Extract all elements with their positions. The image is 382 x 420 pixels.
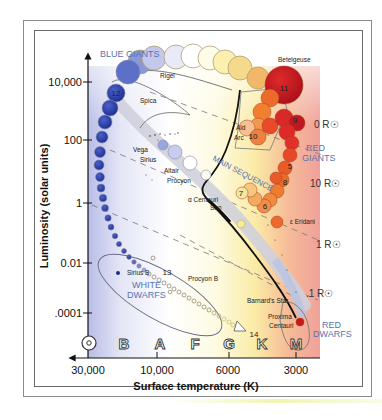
x-tick-3000: 3000 bbox=[284, 364, 308, 376]
track-number-8: 8 bbox=[283, 178, 288, 187]
hr-diagram-figure: 10,000 100 1 0.01 .0001 Luminosity (sola… bbox=[0, 0, 382, 420]
label-procyon: Procyon bbox=[167, 177, 191, 185]
label-red-giants-1: RED bbox=[306, 143, 326, 153]
label-vega: Vega bbox=[133, 146, 148, 154]
x-axis-label: Surface temperature (K) bbox=[133, 380, 259, 392]
label-rigel: Rigel bbox=[160, 72, 175, 80]
radius-label-100: 0 R☉ bbox=[314, 119, 339, 130]
label-sirius: Sirius bbox=[140, 156, 157, 163]
track-number-6: 6 bbox=[263, 202, 268, 211]
spectral-class-g: G bbox=[223, 335, 235, 352]
label-alpha-centauri: α Centauri bbox=[188, 196, 218, 203]
label-white-dwarfs-2: DWARFS bbox=[127, 290, 166, 300]
label-epsilon-eridani: ε Eridani bbox=[290, 218, 315, 225]
y-tick-00001: .0001 bbox=[54, 307, 82, 319]
y-tick-1: 1 bbox=[76, 197, 82, 209]
sirius-b-dot bbox=[116, 271, 120, 275]
radius-label-01: .1 R☉ bbox=[306, 288, 333, 299]
track-number-13: 13 bbox=[163, 268, 172, 277]
x-tick-10000: 10,000 bbox=[140, 364, 174, 376]
y-tick-001: 0.01 bbox=[61, 257, 82, 269]
y-tick-100: 100 bbox=[64, 134, 82, 146]
proxima-dot bbox=[296, 318, 304, 326]
label-procyon-b: Procyon B bbox=[188, 275, 218, 283]
label-sun: Sun bbox=[210, 204, 222, 211]
label-proxima-1: Proxima bbox=[268, 313, 292, 320]
track-number-5: 5 bbox=[288, 162, 293, 171]
label-altair: Altair bbox=[164, 167, 180, 174]
label-proxima-2: Centauri bbox=[269, 322, 294, 329]
spectral-class-o-center bbox=[87, 341, 91, 345]
track-number-10: 10 bbox=[249, 132, 258, 141]
label-red-dwarfs-2: DWARFS bbox=[313, 329, 352, 339]
spectral-class-m: M bbox=[290, 335, 303, 352]
spectral-class-a: A bbox=[155, 335, 166, 352]
label-arcturus: Arc bbox=[234, 134, 245, 141]
y-axis-label: Luminosity (solar units) bbox=[38, 143, 50, 268]
y-tick-10000: 10,000 bbox=[48, 76, 82, 88]
label-betelgeuse: Betelgeuse bbox=[278, 56, 311, 64]
label-barnards-star: Barnard's Star bbox=[247, 297, 289, 304]
label-spica: Spica bbox=[140, 97, 157, 105]
label-aldebaran: Ald bbox=[236, 124, 246, 131]
track-number-9: 9 bbox=[293, 116, 298, 125]
track-number-12: 12 bbox=[112, 89, 121, 98]
x-tick-6000: 6000 bbox=[216, 364, 240, 376]
x-tick-labels: 30,000 10,000 6000 3000 bbox=[71, 364, 308, 376]
track-number-14: 14 bbox=[250, 330, 259, 339]
label-blue-giants: BLUE GIANTS bbox=[100, 49, 160, 59]
radius-label-1: 1 R☉ bbox=[316, 239, 341, 250]
spectral-class-b: B bbox=[119, 335, 130, 352]
sun-sphere bbox=[237, 220, 245, 228]
label-sirius-b: Sirius B bbox=[127, 269, 149, 276]
track-number-11: 11 bbox=[280, 84, 289, 93]
label-white-dwarfs-1: WHITE bbox=[132, 280, 161, 290]
radius-label-10: 10 R☉ bbox=[310, 178, 340, 189]
track-number-7: 7 bbox=[239, 189, 244, 198]
hr-diagram-svg: 10,000 100 1 0.01 .0001 Luminosity (sola… bbox=[0, 0, 382, 420]
spectral-class-f: F bbox=[190, 335, 199, 352]
x-tick-30000: 30,000 bbox=[71, 364, 105, 376]
y-tick-labels: 10,000 100 1 0.01 .0001 bbox=[48, 76, 82, 319]
label-red-giants-2: GIANTS bbox=[302, 153, 336, 163]
